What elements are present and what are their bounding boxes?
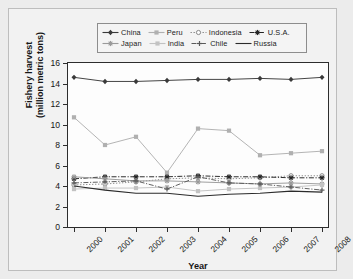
legend-row-1: ChinaPeruIndonesiaU.S.A. (102, 27, 302, 38)
y-tick-label: 14 (34, 79, 60, 89)
data-point (134, 79, 139, 84)
legend-marker-china (102, 28, 119, 37)
y-axis-title-line1: Fishery harvest (24, 42, 34, 109)
data-point (108, 30, 113, 35)
data-point (197, 41, 202, 46)
x-tick-label: 2007 (301, 234, 321, 254)
x-tick-mark (74, 228, 75, 232)
data-point (289, 77, 294, 82)
y-tick-label: 16 (34, 58, 60, 68)
x-tick-label: 2002 (146, 234, 166, 254)
data-point (108, 41, 113, 46)
legend-marker-peru (148, 28, 165, 37)
series-layer (68, 63, 328, 227)
legend-item-china[interactable]: China (102, 28, 141, 37)
y-tick-label: 2 (34, 202, 60, 212)
data-point (103, 79, 108, 84)
legend-marker-usa (249, 28, 266, 37)
data-point (258, 153, 262, 157)
legend-item-usa[interactable]: U.S.A. (249, 28, 290, 37)
data-point (134, 135, 138, 139)
data-point (154, 30, 158, 34)
data-point (196, 30, 200, 34)
x-tick-mark (198, 228, 199, 232)
data-point (227, 129, 231, 133)
x-tick-label: 2000 (84, 234, 104, 254)
legend-marker-india (149, 39, 166, 48)
y-tick-label: 4 (34, 181, 60, 191)
data-point (164, 178, 169, 183)
data-point (72, 187, 76, 191)
x-tick-mark (322, 228, 323, 232)
data-point (71, 174, 76, 179)
legend-item-russia[interactable]: Russia (235, 39, 277, 48)
data-point (226, 174, 231, 179)
chart-card: ChinaPeruIndonesiaU.S.A. JapanIndiaChile… (8, 8, 337, 271)
x-tick-label: 2008 (332, 234, 352, 254)
data-point (255, 30, 260, 35)
x-tick-label: 2004 (208, 234, 228, 254)
x-tick-label: 2006 (270, 234, 290, 254)
data-point (320, 149, 324, 153)
data-point (289, 151, 293, 155)
legend-label: China (121, 29, 141, 36)
legend-label: U.S.A. (268, 29, 290, 36)
y-tick-label: 6 (34, 161, 60, 171)
data-point (155, 41, 159, 45)
series-china (72, 75, 325, 85)
legend-label: India (168, 40, 185, 47)
legend-item-indonesia[interactable]: Indonesia (190, 28, 242, 37)
data-point (319, 175, 324, 180)
data-point (195, 179, 200, 184)
y-tick-label: 8 (34, 140, 60, 150)
legend-item-peru[interactable]: Peru (148, 28, 183, 37)
legend-label: Indonesia (209, 29, 242, 36)
x-tick-mark (260, 228, 261, 232)
data-point (134, 186, 138, 190)
data-point (227, 187, 231, 191)
y-tick-label: 12 (34, 99, 60, 109)
legend-item-japan[interactable]: Japan (102, 39, 142, 48)
data-point (196, 77, 201, 82)
legend-item-india[interactable]: India (149, 39, 185, 48)
x-tick-mark (136, 228, 137, 232)
data-point (72, 75, 77, 80)
data-point (320, 75, 325, 80)
x-tick-mark (105, 228, 106, 232)
data-point (196, 189, 200, 193)
x-tick-label: 2001 (115, 234, 135, 254)
legend-label: Japan (121, 40, 142, 47)
data-point (227, 77, 232, 82)
data-point (196, 127, 200, 131)
plot-area (67, 62, 329, 228)
x-tick-label: 2003 (177, 234, 197, 254)
x-tick-mark (291, 228, 292, 232)
x-axis-title: Year (67, 261, 329, 271)
x-tick-mark (167, 228, 168, 232)
legend-marker-japan (102, 39, 119, 48)
legend-label: Peru (167, 29, 183, 36)
chart-legend: ChinaPeruIndonesiaU.S.A. JapanIndiaChile… (97, 23, 307, 53)
data-point (258, 76, 263, 81)
legend-marker-chile (191, 39, 208, 48)
x-tick-mark (229, 228, 230, 232)
series-peru (72, 115, 324, 175)
legend-row-2: JapanIndiaChileRussia (102, 38, 302, 49)
data-point (103, 143, 107, 147)
data-point (257, 174, 262, 179)
x-tick-label: 2005 (239, 234, 259, 254)
legend-marker-indonesia (190, 28, 207, 37)
legend-label: Russia (254, 40, 277, 47)
legend-marker-russia (235, 39, 252, 48)
y-tick-label: 0 (34, 222, 60, 232)
data-point (165, 171, 169, 175)
data-point (165, 78, 170, 83)
legend-item-chile[interactable]: Chile (191, 39, 227, 48)
data-point (72, 115, 76, 119)
y-axis-ticks: 0246810121416 (35, 62, 67, 228)
data-point (320, 183, 324, 187)
y-tick-label: 10 (34, 120, 60, 130)
legend-label: Chile (210, 40, 227, 47)
data-point (258, 186, 262, 190)
